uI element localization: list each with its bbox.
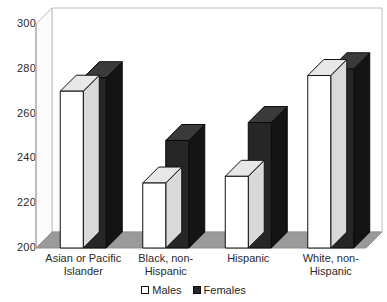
bar-black-non-hispanic-males: [143, 167, 182, 248]
legend-label: Females: [204, 284, 246, 296]
bar-black-non-hispanic-females-side-face: [189, 124, 205, 248]
chart-legend: MalesFemales: [0, 284, 387, 296]
bar-asian-or-pacific-islander-males: [60, 75, 99, 248]
bar-hispanic-males-front-face: [225, 176, 248, 248]
bar-white-non-hispanic-males: [308, 60, 347, 248]
chart-figure: 300280260240220200 Asian or PacificIslan…: [0, 0, 387, 302]
filled-square-swatch: [193, 286, 201, 294]
bar-hispanic-males: [225, 160, 264, 248]
open-square-swatch: [141, 286, 149, 294]
bar-asian-or-pacific-islander-females-side-face: [106, 62, 122, 248]
legend-entry-males[interactable]: Males: [141, 284, 181, 296]
bar-white-non-hispanic-males-side-face: [331, 60, 347, 248]
x-axis-label-line: Hispanic: [276, 265, 386, 278]
x-axis-label-line: Hispanic: [111, 265, 221, 278]
legend-entry-females[interactable]: Females: [193, 284, 246, 296]
bar-hispanic-females-side-face: [271, 107, 287, 248]
x-axis-label-line: White, non-: [276, 252, 386, 265]
bar-black-non-hispanic-males-front-face: [143, 183, 166, 248]
legend-label: Males: [152, 284, 181, 296]
x-axis-label-white-non-hispanic: White, non-Hispanic: [276, 252, 386, 278]
bar-asian-or-pacific-islander-males-side-face: [83, 75, 99, 248]
bar-asian-or-pacific-islander-males-front-face: [60, 91, 83, 248]
bar-white-non-hispanic-males-front-face: [308, 76, 331, 248]
bar-white-non-hispanic-females-side-face: [354, 53, 370, 248]
